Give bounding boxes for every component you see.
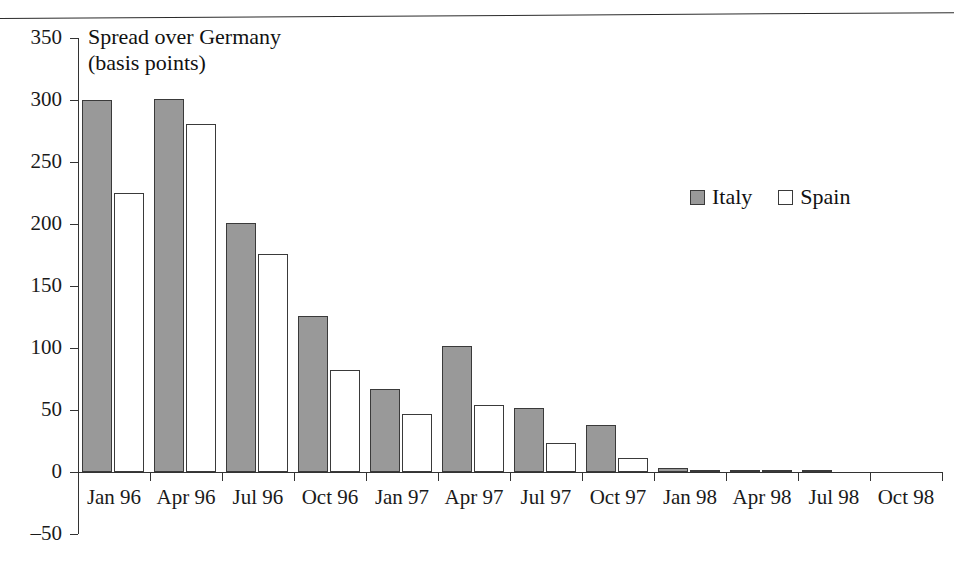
bar-spain-jul-96 <box>258 254 288 472</box>
x-axis-tick <box>510 472 511 481</box>
y-axis-tick <box>70 472 78 473</box>
x-axis-tick-label: Jan 96 <box>78 487 150 508</box>
axis-note-line-1: Spread over Germany <box>88 24 281 50</box>
y-axis-tick-label: 250 <box>31 151 63 172</box>
y-axis-tick <box>70 162 78 163</box>
y-axis-tick <box>70 224 78 225</box>
y-axis-tick-label: ‒50 <box>31 523 63 544</box>
y-axis-tick <box>70 534 78 535</box>
x-axis-tick-label: Jan 97 <box>366 487 438 508</box>
legend: ItalySpain <box>690 184 850 210</box>
bar-italy-jan-96 <box>82 100 112 472</box>
y-axis-tick-label: 350 <box>31 27 63 48</box>
bar-italy-apr-96 <box>154 99 184 472</box>
y-axis-line <box>78 38 79 534</box>
x-axis-tick-label: Oct 96 <box>294 487 366 508</box>
legend-entry-italy: Italy <box>690 184 752 210</box>
y-axis-tick <box>70 286 78 287</box>
y-axis-tick <box>70 348 78 349</box>
bar-italy-jan-98 <box>658 468 688 472</box>
y-axis-tick-label: 150 <box>31 275 63 296</box>
bar-spain-apr-97 <box>474 405 504 472</box>
bar-italy-jul-96 <box>226 223 256 472</box>
y-axis-tick <box>70 410 78 411</box>
legend-label: Italy <box>712 184 752 210</box>
y-axis-tick-label: 0 <box>52 461 63 482</box>
bar-spain-oct-97 <box>618 458 648 472</box>
y-axis-tick <box>70 38 78 39</box>
bar-spain-jan-98 <box>690 470 720 472</box>
x-axis-tick <box>654 472 655 481</box>
bar-italy-oct-97 <box>586 425 616 472</box>
x-axis-tick <box>726 472 727 481</box>
bar-spain-apr-98 <box>762 470 792 472</box>
x-axis-tick <box>150 472 151 481</box>
bar-italy-oct-96 <box>298 316 328 472</box>
x-axis-tick-label: Apr 98 <box>726 487 798 508</box>
bar-italy-jul-98 <box>802 470 832 472</box>
x-axis-tick <box>798 472 799 481</box>
legend-swatch-icon <box>690 190 705 205</box>
x-axis-tick <box>222 472 223 481</box>
legend-swatch-icon <box>778 190 793 205</box>
x-axis-tick-label: Apr 97 <box>438 487 510 508</box>
x-axis-tick-label: Jul 98 <box>798 487 870 508</box>
y-axis-tick <box>70 100 78 101</box>
x-axis-tick <box>582 472 583 481</box>
bar-spain-apr-96 <box>186 124 216 472</box>
x-axis-tick <box>942 472 943 481</box>
bar-italy-apr-98 <box>730 470 760 472</box>
bar-spain-jan-96 <box>114 193 144 472</box>
axis-note-line-2: (basis points) <box>88 50 281 76</box>
bar-italy-jan-97 <box>370 389 400 472</box>
bar-chart: Spread over Germany (basis points) 35030… <box>0 0 954 564</box>
x-axis-tick <box>294 472 295 481</box>
x-axis-tick-label: Oct 97 <box>582 487 654 508</box>
y-axis-tick-label: 50 <box>41 399 62 420</box>
x-axis-tick <box>366 472 367 481</box>
bar-spain-oct-96 <box>330 370 360 472</box>
x-axis-tick-label: Oct 98 <box>870 487 942 508</box>
x-axis-tick-label: Jan 98 <box>654 487 726 508</box>
x-axis-tick <box>78 472 79 481</box>
bar-italy-apr-97 <box>442 346 472 472</box>
x-axis-tick-label: Jul 97 <box>510 487 582 508</box>
legend-entry-spain: Spain <box>778 184 850 210</box>
legend-label: Spain <box>800 184 850 210</box>
y-axis-tick-label: 200 <box>31 213 63 234</box>
x-axis-tick <box>438 472 439 481</box>
y-axis-tick-label: 100 <box>31 337 63 358</box>
x-axis-tick-label: Apr 96 <box>150 487 222 508</box>
bar-spain-jul-97 <box>546 443 576 472</box>
x-axis-tick <box>870 472 871 481</box>
axis-note: Spread over Germany (basis points) <box>88 24 281 76</box>
bar-spain-jan-97 <box>402 414 432 472</box>
y-axis-tick-label: 300 <box>31 89 63 110</box>
bar-italy-jul-97 <box>514 408 544 472</box>
x-axis-tick-label: Jul 96 <box>222 487 294 508</box>
